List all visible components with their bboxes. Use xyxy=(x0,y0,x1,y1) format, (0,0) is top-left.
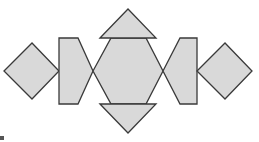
right-square xyxy=(197,43,252,99)
left-square xyxy=(4,43,59,99)
corner-mark xyxy=(0,136,4,140)
right-trapezoid xyxy=(163,38,197,104)
center-hexagon xyxy=(93,38,163,104)
left-trapezoid xyxy=(59,38,93,104)
top-triangle xyxy=(100,9,156,38)
bottom-triangle xyxy=(100,104,156,133)
polyhedron-net-diagram xyxy=(0,0,259,142)
